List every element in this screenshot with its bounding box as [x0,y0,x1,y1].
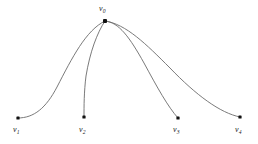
edges-group [18,21,240,118]
node-label-v0: v0 [99,5,105,13]
node-label-v2: v2 [79,126,85,134]
node-v1 [16,116,19,119]
node-label-subscript-v4: 4 [239,129,242,135]
node-v4 [238,115,241,118]
node-v2 [82,115,85,118]
node-label-v3: v3 [173,126,179,134]
graph-figure: v0v1v2v3v4 [0,0,258,144]
edge-v0-v3 [105,21,178,118]
node-label-subscript-v3: 3 [177,129,180,135]
node-label-subscript-v0: 0 [103,8,106,14]
graph-canvas [0,0,258,144]
node-label-v1: v1 [13,126,19,134]
nodes-group [16,19,241,120]
edge-v0-v1 [18,21,105,118]
edge-v0-v4 [105,21,240,117]
node-label-v4: v4 [235,126,241,134]
node-v0 [103,19,107,23]
node-label-subscript-v2: 2 [83,129,86,135]
node-label-subscript-v1: 1 [17,129,20,135]
node-v3 [176,116,179,119]
